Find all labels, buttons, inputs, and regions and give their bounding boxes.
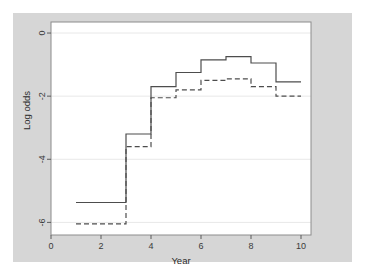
x-axis-ticks-group: 0246810 <box>48 235 306 251</box>
x-tick-label-0: 0 <box>48 241 53 251</box>
y-tick-label-0: 0 <box>37 31 47 36</box>
y-axis-title: Log odds <box>21 91 32 130</box>
x-axis-title: Year <box>171 255 190 266</box>
y-tick-label-3: -6 <box>37 218 47 226</box>
x-tick-label-2: 4 <box>148 241 153 251</box>
y-tick-label-1: -2 <box>37 92 47 100</box>
y-tick-label-2: -4 <box>37 155 47 163</box>
y-axis-ticks-group: 0-2-4-6 <box>37 31 51 227</box>
x-tick-label-5: 10 <box>296 241 306 251</box>
chart-canvas: 0246810 0-2-4-6 YearLog odds <box>0 0 365 275</box>
x-tick-label-1: 2 <box>98 241 103 251</box>
x-tick-label-4: 8 <box>248 241 253 251</box>
figure-container: 0246810 0-2-4-6 YearLog odds <box>0 0 365 275</box>
x-tick-label-3: 6 <box>198 241 203 251</box>
